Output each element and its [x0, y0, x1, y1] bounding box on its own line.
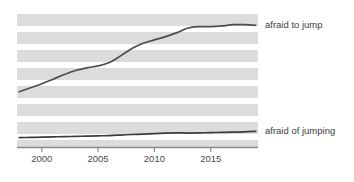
- line-chart: 2000 2005 2010 2015 afraid to jump afrai…: [0, 0, 354, 182]
- x-tick-label-2015: 2015: [200, 153, 221, 164]
- grid-band: [17, 32, 258, 44]
- grid-band: [17, 50, 258, 62]
- chart-container: 2000 2005 2010 2015 afraid to jump afrai…: [0, 0, 354, 182]
- series-label-afraid-of-jumping: afraid of jumping: [265, 125, 335, 136]
- x-tick-label-2005: 2005: [88, 153, 109, 164]
- x-tick-label-2010: 2010: [144, 153, 165, 164]
- series-label-afraid-to-jump: afraid to jump: [265, 19, 323, 30]
- grid-band: [17, 14, 258, 26]
- x-tick-label-2000: 2000: [31, 153, 52, 164]
- grid-band: [17, 104, 258, 116]
- grid-band: [17, 68, 258, 80]
- grid-band: [17, 86, 258, 98]
- grid-band: [17, 140, 258, 147]
